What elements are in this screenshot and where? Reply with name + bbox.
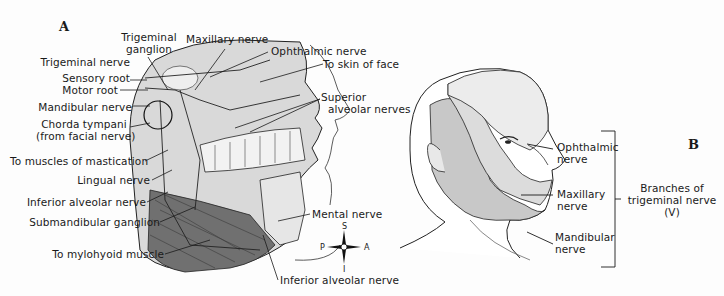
orientation-compass [327,230,361,264]
panel-b-letter: B [688,137,699,152]
label-line: Branches of [620,182,724,194]
trigeminal-nerve-figure: A B Trigeminal ganglion Maxillary nerve … [0,0,724,296]
label-b-ophthalmic-nerve: Ophthalmic nerve [557,141,619,165]
label-motor-root: Motor root [40,84,118,96]
panel-a-illustration [130,40,350,272]
label-submandibular-ganglion: Submandibular ganglion [20,216,160,228]
label-line: Mandibular [555,231,615,243]
panel-a-letter: A [59,19,69,34]
label-superior-alveolar-nerves: Superior alveolar nerves [321,91,411,115]
label-line: ganglion [120,43,178,55]
label-line: nerve [557,153,619,165]
label-line: trigeminal nerve [620,194,724,206]
label-mental-nerve: Mental nerve [312,208,382,220]
label-sensory-root: Sensory root [40,72,130,84]
label-lingual-nerve: Lingual nerve [40,174,150,186]
compass-posterior: P [320,243,325,252]
label-inferior-alveolar-nerve-left: Inferior alveolar nerve [20,196,146,208]
label-b-maxillary-nerve: Maxillary nerve [557,188,605,212]
label-trigeminal-nerve: Trigeminal nerve [40,56,130,68]
label-to-mylohyoid-muscle: To mylohyoid muscle [40,248,164,260]
label-branches-of-trigeminal-nerve: Branches of trigeminal nerve (V) [620,182,724,218]
compass-inferior: I [343,265,345,274]
label-line: nerve [557,200,605,212]
label-mandibular-nerve: Mandibular nerve [20,101,132,113]
label-line: Superior [321,91,411,103]
label-line: nerve [555,243,615,255]
label-line: (V) [620,206,724,218]
panel-b-illustration [400,68,565,260]
label-inferior-alveolar-nerve-bottom: Inferior alveolar nerve [280,274,399,286]
label-trigeminal-ganglion: Trigeminal ganglion [120,31,178,55]
label-line: (from facial nerve) [36,130,132,142]
label-b-mandibular-nerve: Mandibular nerve [555,231,615,255]
label-line: Chorda tympani [36,118,132,130]
label-line: Ophthalmic [557,141,619,153]
compass-superior: S [342,222,347,231]
label-to-muscles-of-mastication: To muscles of mastication [10,155,144,167]
label-line: Trigeminal [120,31,178,43]
label-ophthalmic-nerve: Ophthalmic nerve [271,45,367,57]
label-line: alveolar nerves [321,103,411,115]
label-line: Maxillary [557,188,605,200]
label-chorda-tympani: Chorda tympani (from facial nerve) [36,118,132,142]
compass-anterior: A [364,243,369,252]
label-maxillary-nerve: Maxillary nerve [186,33,268,45]
label-to-skin-of-face: To skin of face [323,58,399,70]
